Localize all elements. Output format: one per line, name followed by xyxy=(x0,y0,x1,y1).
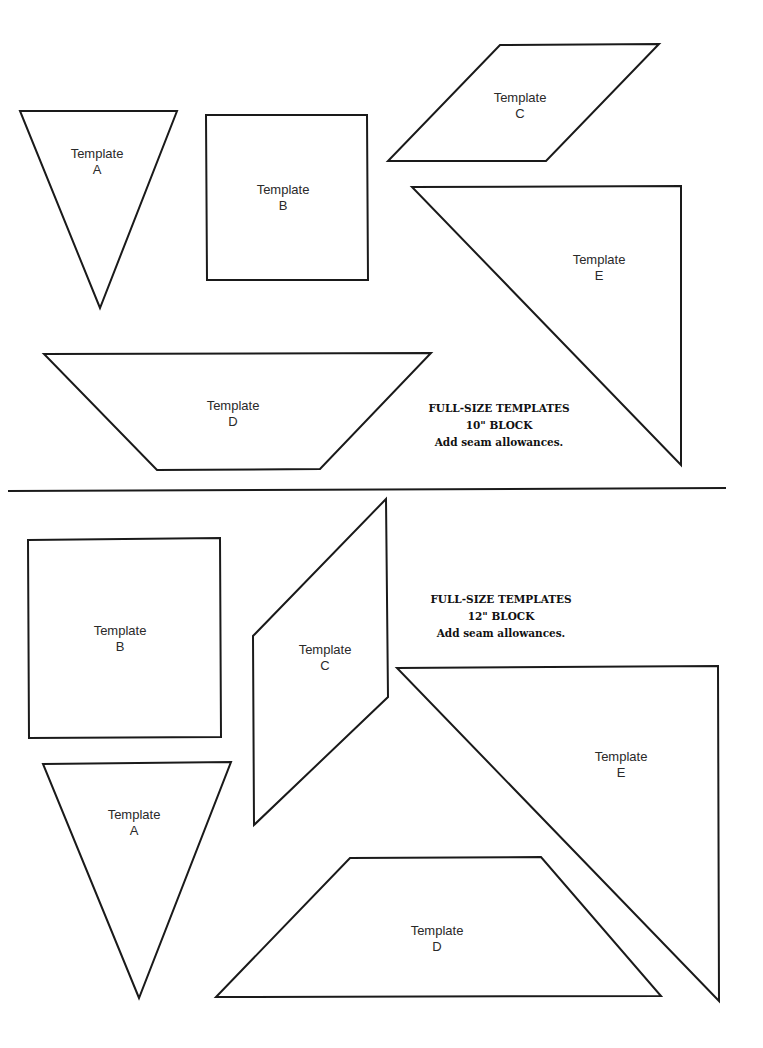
section-divider xyxy=(8,488,726,491)
note-instruction: Add seam allowances. xyxy=(428,434,569,451)
note-instruction: Add seam allowances. xyxy=(430,625,571,642)
template-label-letter: D xyxy=(207,414,260,430)
template-label-name: Template xyxy=(207,398,260,414)
note-block-size: 12" BLOCK xyxy=(430,608,571,625)
template-label-letter: A xyxy=(108,823,161,839)
template-d-12in-label: Template D xyxy=(411,923,464,955)
template-label-letter: C xyxy=(299,658,352,674)
note-block-size: 10" BLOCK xyxy=(428,417,569,434)
template-a-10in-shape xyxy=(20,111,177,308)
template-label-letter: B xyxy=(94,639,147,655)
template-e-10in-label: Template E xyxy=(573,252,626,284)
template-label-name: Template xyxy=(94,623,147,639)
template-label-letter: C xyxy=(494,106,547,122)
template-label-letter: A xyxy=(71,162,124,178)
template-label-letter: B xyxy=(257,198,310,214)
template-e-12in-label: Template E xyxy=(595,749,648,781)
template-label-name: Template xyxy=(494,90,547,106)
template-a-12in-shape xyxy=(43,762,231,998)
template-label-name: Template xyxy=(108,807,161,823)
template-label-name: Template xyxy=(257,182,310,198)
template-b-12in-label: Template B xyxy=(94,623,147,655)
template-b-10in-label: Template B xyxy=(257,182,310,214)
template-label-name: Template xyxy=(573,252,626,268)
template-label-name: Template xyxy=(71,146,124,162)
template-a-10in-label: Template A xyxy=(71,146,124,178)
block-12in-note: FULL-SIZE TEMPLATES 12" BLOCK Add seam a… xyxy=(430,591,571,642)
note-heading: FULL-SIZE TEMPLATES xyxy=(430,591,571,608)
template-label-name: Template xyxy=(411,923,464,939)
template-c-10in-label: Template C xyxy=(494,90,547,122)
template-label-letter: E xyxy=(595,765,648,781)
template-label-letter: D xyxy=(411,939,464,955)
template-label-letter: E xyxy=(573,268,626,284)
template-c-12in-label: Template C xyxy=(299,642,352,674)
template-label-name: Template xyxy=(299,642,352,658)
template-label-name: Template xyxy=(595,749,648,765)
block-10in-note: FULL-SIZE TEMPLATES 10" BLOCK Add seam a… xyxy=(428,400,569,451)
template-a-12in-label: Template A xyxy=(108,807,161,839)
note-heading: FULL-SIZE TEMPLATES xyxy=(428,400,569,417)
template-d-10in-label: Template D xyxy=(207,398,260,430)
